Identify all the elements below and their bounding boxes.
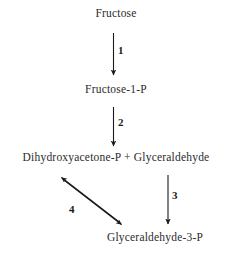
step-label-4: 4: [69, 204, 75, 215]
step-label-2: 2: [118, 117, 124, 128]
arrow-step-4-reversible: [62, 178, 122, 225]
pathway-diagram: Fructose Fructose-1-P Dihydroxyacetone-P…: [0, 0, 232, 257]
arrow-layer: [0, 0, 232, 257]
step-label-1: 1: [118, 45, 124, 56]
step-label-3: 3: [172, 190, 178, 201]
